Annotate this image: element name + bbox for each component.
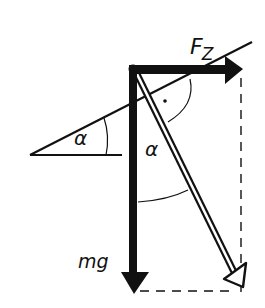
weight-label: mg xyxy=(78,252,109,271)
resultant-force-arrow xyxy=(135,70,246,287)
resultant-angle-arc xyxy=(138,190,188,202)
resultant-angle-label: α xyxy=(145,139,158,159)
right-angle-dot xyxy=(163,99,167,103)
diagram-canvas xyxy=(0,0,265,308)
right-angle-arc xyxy=(168,79,191,122)
incline-angle-label: α xyxy=(74,128,87,148)
incline-line xyxy=(30,42,252,155)
incline-angle-arc xyxy=(104,118,108,155)
centrifugal-force-arrow xyxy=(129,56,243,84)
weight-force-arrow xyxy=(121,66,149,294)
pivot-point xyxy=(129,65,138,74)
centrifugal-force-label: FZ xyxy=(190,36,213,63)
